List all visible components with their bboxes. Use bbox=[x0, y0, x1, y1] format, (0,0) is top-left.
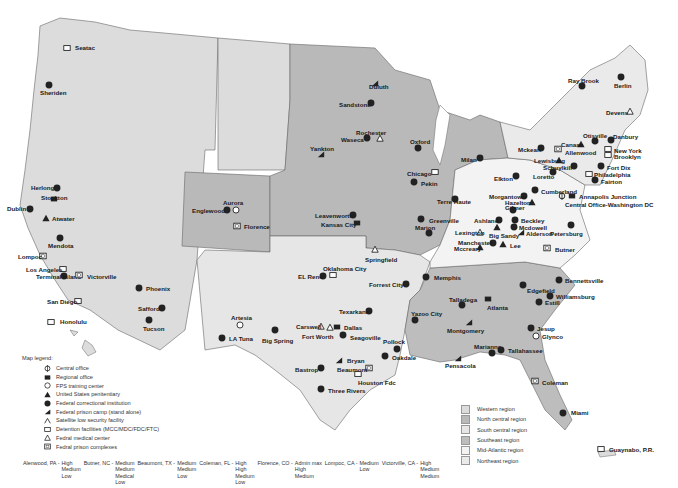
legend-item-label: FPS training center bbox=[56, 383, 104, 389]
facility-label: Williamsburg bbox=[556, 294, 595, 300]
complex-name: Victorville, CA - bbox=[382, 460, 418, 485]
facility-label: Seagoville bbox=[350, 335, 381, 341]
complex-entry: Alenwood, PA -HighMediumLow bbox=[23, 460, 81, 485]
region-swatch bbox=[461, 405, 470, 414]
prison-camp-icon bbox=[44, 408, 56, 415]
fci-icon bbox=[597, 162, 605, 170]
facility-label: Safford bbox=[138, 306, 160, 312]
facility-label: EL Reno bbox=[298, 274, 323, 280]
complex-icon bbox=[554, 145, 562, 153]
facility-label: Guaynabo, P.R. bbox=[609, 447, 654, 453]
facility-label: Central Office-Washington DC bbox=[565, 202, 653, 208]
fci-icon bbox=[363, 134, 371, 142]
facility-label: LA Tuna bbox=[229, 336, 253, 342]
facility-label: Oakdale bbox=[392, 355, 416, 361]
facility-label: Pollock bbox=[383, 339, 405, 345]
facility-label: Talladega bbox=[449, 297, 477, 303]
central-office-icon bbox=[44, 365, 56, 372]
facility-label: Bryan bbox=[347, 358, 365, 364]
legend-item-label: United States penitentiary bbox=[56, 391, 120, 397]
fci-icon bbox=[145, 316, 153, 324]
facility-label: Bennettsville bbox=[565, 278, 604, 284]
region-swatch bbox=[461, 456, 470, 465]
legend-item-label: Detention facilities (MCC/MDC/FDC/FTC) bbox=[56, 426, 159, 432]
facility-label: Chicago bbox=[407, 171, 431, 177]
facility-label: Tallahassee bbox=[508, 348, 543, 354]
complex-entry: Butner, NC -MediumMediumMedicalLow bbox=[84, 460, 135, 485]
fci-icon bbox=[26, 205, 34, 213]
facility-label: Victorville bbox=[87, 274, 116, 280]
facility-label: Phoenix bbox=[146, 286, 170, 292]
facility-label: Butner bbox=[555, 247, 575, 253]
complex-icon bbox=[531, 377, 539, 385]
training-center-icon bbox=[532, 332, 540, 340]
region-label: South central region bbox=[477, 427, 527, 433]
fci-icon bbox=[56, 234, 64, 242]
facility-label: Oklahoma City bbox=[323, 266, 366, 272]
facility-label: Petersburg bbox=[550, 231, 583, 237]
prison-camp-icon bbox=[465, 318, 473, 326]
legend-item-label: Fedral prison complexes bbox=[56, 444, 117, 450]
regional-office-icon bbox=[333, 323, 341, 331]
facility-label: Mckean bbox=[518, 147, 541, 153]
usp-icon bbox=[44, 391, 56, 398]
facility-label: Three Rivers bbox=[328, 388, 366, 394]
facility-label: Devens bbox=[606, 110, 628, 116]
facility-label: Lompoc bbox=[18, 254, 42, 260]
facility-label: Atlanta bbox=[487, 305, 508, 311]
facility-label: Loretto bbox=[533, 174, 554, 180]
complex-name: Alenwood, PA - bbox=[23, 460, 59, 485]
region-label: North central region bbox=[477, 416, 526, 422]
detention-icon bbox=[597, 445, 605, 453]
facility-label: Yazoo City bbox=[411, 311, 442, 317]
facility-label: Ray Brook bbox=[568, 78, 599, 84]
training-center-icon bbox=[236, 321, 244, 329]
legend-item-label: Satellite low security facility bbox=[56, 417, 124, 423]
facility-label: Yankton bbox=[310, 146, 334, 152]
facility-label: Canaan bbox=[561, 142, 583, 148]
region-swatch bbox=[461, 425, 470, 434]
complex-name: Florence, CO - bbox=[258, 460, 293, 485]
facility-label: Kansas City bbox=[321, 222, 356, 228]
legend-item: United States penitentiary bbox=[44, 390, 159, 399]
usp-icon bbox=[42, 214, 50, 222]
fci-icon bbox=[44, 400, 56, 407]
facility-label: Mendota bbox=[48, 243, 73, 249]
security-level: Low bbox=[115, 479, 134, 485]
facility-label: Sandstone bbox=[339, 102, 371, 108]
training-center-icon bbox=[232, 206, 240, 214]
detention-icon bbox=[354, 370, 362, 378]
region-swatch bbox=[461, 436, 470, 445]
legend-item-label: Regional office bbox=[56, 374, 93, 380]
fci-icon bbox=[393, 345, 401, 353]
region-legend-item: South central region bbox=[461, 425, 527, 435]
complex-icon bbox=[75, 271, 83, 279]
facility-label: Seatac bbox=[75, 45, 95, 51]
legend-title: Map legend: bbox=[22, 355, 159, 361]
facility-label: Artesia bbox=[231, 315, 252, 321]
facility-label: Dublin bbox=[7, 206, 26, 212]
facility-label: Texarkana bbox=[339, 309, 369, 315]
fci-icon bbox=[135, 284, 143, 292]
fci-icon bbox=[339, 331, 347, 339]
facility-label: Fort Worth bbox=[302, 334, 334, 340]
legend-item-label: Federal prison camp (stand alone) bbox=[56, 409, 141, 415]
facility-label: San Diego bbox=[47, 299, 77, 305]
detention-icon bbox=[431, 168, 439, 176]
facility-label: Elkton bbox=[494, 176, 513, 182]
legend-item: Regional office bbox=[44, 373, 159, 382]
fci-icon bbox=[476, 154, 484, 162]
map-legend: Map legend: Central officeRegional offic… bbox=[22, 355, 159, 451]
fci-icon bbox=[317, 385, 325, 393]
fci-icon bbox=[45, 81, 53, 89]
detention-icon bbox=[604, 151, 612, 159]
legend-item: Fedral medical center bbox=[44, 434, 159, 443]
facility-label: Lee bbox=[510, 243, 521, 249]
regional-office-icon bbox=[44, 374, 56, 381]
fci-icon bbox=[417, 215, 425, 223]
security-level: Low bbox=[61, 473, 80, 479]
fci-icon bbox=[422, 273, 430, 281]
region-swatch bbox=[461, 415, 470, 424]
regional-office-icon bbox=[568, 192, 576, 200]
complex-icon bbox=[233, 222, 241, 230]
